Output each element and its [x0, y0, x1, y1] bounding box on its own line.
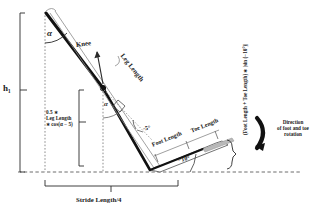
leg-length-chord-inner — [55, 11, 160, 166]
direction-of-rotation-label: Direction of foot and toe rotation — [269, 120, 317, 138]
leg-length-chord-outer — [50, 13, 154, 168]
rotation-arrow-curve — [257, 118, 263, 148]
leg-geometry-diagram: h₁ α α Knee Leg Length -5° −10° Foot Len… — [0, 0, 319, 219]
leg-length-brace-top-cap — [46, 9, 56, 12]
alpha-knee-label: α — [104, 100, 108, 108]
half-leg-expression-line3: ∗ cos(α − 5) — [46, 122, 84, 128]
half-leg-brace — [79, 90, 84, 166]
knee-arrowhead — [94, 51, 100, 58]
foot-toe-drop-brace — [227, 140, 236, 169]
h1-label: h₁ — [3, 83, 11, 93]
foot-toe-expression: (Foot Length + Toe Length) ∗ |sin (−10°)… — [243, 44, 249, 135]
direction-line-3: rotation — [269, 132, 317, 138]
angle-5-label: -5° — [143, 125, 151, 133]
knee-joint-marker — [100, 85, 106, 91]
angle-5-leader — [137, 130, 143, 132]
stride-length-brace — [45, 180, 178, 186]
h1-brace — [20, 13, 25, 172]
stride-length-label: Stride Length/4 — [76, 196, 122, 204]
toe-end-tick — [215, 131, 218, 139]
toe-segment — [203, 138, 234, 152]
thigh-segment — [46, 13, 103, 88]
half-leg-expression: 0.5 ∗ Leg Length ∗ cos(α − 5) — [46, 110, 84, 128]
alpha-hip-label: α — [47, 28, 52, 38]
